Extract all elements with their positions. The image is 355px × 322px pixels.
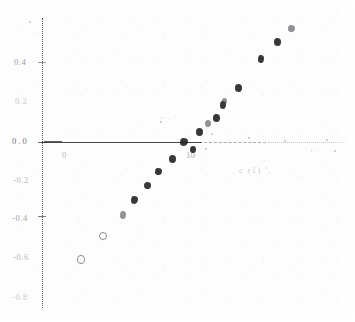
scan-speck [205, 148, 207, 150]
data-point [213, 114, 220, 122]
data-point [180, 138, 188, 146]
right-axis-smudge: ' r . [305, 146, 319, 154]
data-point [205, 120, 211, 127]
data-point [222, 98, 227, 104]
data-point [190, 146, 196, 153]
upper-center-smudge: ~ - ' [160, 114, 176, 122]
y-tick-label-6: -0.8 [12, 292, 28, 303]
y-tick-label-0: 0.4 [14, 57, 26, 68]
y-tick-mark-4 [38, 216, 46, 217]
x-axis-line-dashed [204, 142, 266, 143]
scan-speck [160, 121, 162, 123]
data-point [288, 25, 295, 32]
data-point [131, 196, 138, 204]
x-tick-label-origin: 0 [62, 150, 67, 161]
data-point [169, 155, 176, 163]
data-point [235, 84, 242, 92]
scan-speck [29, 21, 31, 23]
x-axis-line-solid [42, 142, 202, 143]
data-point [258, 55, 264, 63]
scan-speck [248, 137, 250, 139]
data-point [77, 255, 85, 264]
x-axis-line-faint [268, 142, 346, 143]
x-axis-caption-smudge: c r1) ', [239, 166, 272, 175]
y-tick-label-4: -0.4 [12, 213, 28, 224]
scan-speck [284, 140, 286, 142]
scan-speck [326, 139, 328, 141]
scan-edge-vignette [0, 0, 355, 322]
data-point [120, 211, 126, 219]
data-point [144, 182, 151, 189]
y-tick-label-5: -0.6 [13, 252, 29, 263]
below-mid-smudge: 1c . [188, 152, 203, 160]
data-point [274, 38, 281, 46]
y-tick-label-3: -0.2 [13, 175, 29, 186]
y-tick-label-2: 0.0 [12, 136, 29, 147]
y-tick-mark-2 [38, 142, 47, 143]
data-point [99, 232, 107, 240]
y-tick-mark-0 [38, 62, 46, 63]
scan-speck [334, 150, 336, 152]
y-tick-label-1: 0.2 [15, 96, 27, 107]
scan-speck [211, 133, 213, 135]
data-point [196, 128, 203, 136]
scan-noise-texture [0, 0, 355, 322]
scatter-plot-figure: 0.4 0.2 0.0 -0.2 -0.4 -0.6 -0.8 0 10 c r… [0, 0, 355, 322]
data-point [155, 168, 162, 175]
